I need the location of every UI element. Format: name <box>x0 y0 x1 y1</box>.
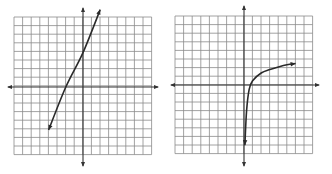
x-axis-arrow-left-icon <box>170 83 175 87</box>
x-axis-arrow-right-icon <box>154 85 159 89</box>
y-axis-arrow-down-icon <box>242 162 246 167</box>
logarithmic-graph: Logarithmic function graph <box>166 0 332 174</box>
line-arrow-end-icon <box>96 10 100 15</box>
linear-graph: Linear function graph <box>0 0 166 174</box>
x-axis-arrow-left-icon <box>7 85 12 89</box>
y-axis-arrow-up-icon <box>242 5 246 10</box>
y-axis-arrow-down-icon <box>81 162 85 167</box>
x-axis-arrow-right-icon <box>315 83 320 87</box>
graphs-stage: Linear function graph Logarithmic functi… <box>0 0 332 174</box>
y-axis-arrow-up-icon <box>81 7 85 12</box>
